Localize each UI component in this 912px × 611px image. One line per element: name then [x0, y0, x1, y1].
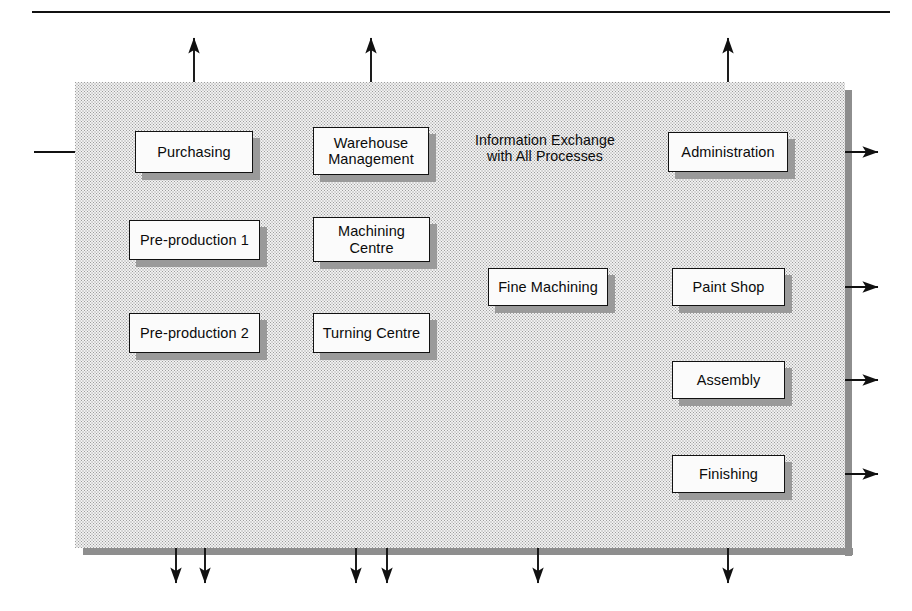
process-node-turning[interactable]: Turning Centre	[313, 313, 430, 353]
process-node-preprod1[interactable]: Pre-production 1	[129, 220, 260, 260]
diagram-canvas: PurchasingWarehouseManagementAdministrat…	[0, 0, 912, 611]
process-node-purchasing[interactable]: Purchasing	[135, 131, 253, 173]
node-label: Paint Shop	[693, 279, 765, 295]
node-label: Finishing	[699, 466, 758, 482]
annotation-line-1: Information Exchange	[452, 132, 638, 148]
node-label: MachiningCentre	[338, 223, 405, 255]
node-label: Fine Machining	[498, 279, 598, 295]
node-label: Turning Centre	[323, 325, 421, 341]
process-node-assembly[interactable]: Assembly	[672, 361, 785, 399]
node-label: Pre-production 1	[140, 232, 249, 248]
information-exchange-annotation: Information Exchange with All Processes	[452, 132, 638, 165]
process-node-finemach[interactable]: Fine Machining	[488, 268, 608, 306]
node-label: WarehouseManagement	[328, 135, 414, 167]
process-node-paintshop[interactable]: Paint Shop	[672, 268, 785, 306]
process-node-finishing[interactable]: Finishing	[672, 455, 785, 493]
node-label: Purchasing	[157, 144, 231, 160]
node-label: Administration	[681, 144, 774, 160]
process-node-machining[interactable]: MachiningCentre	[313, 217, 430, 262]
process-node-preprod2[interactable]: Pre-production 2	[129, 313, 260, 353]
annotation-line-2: with All Processes	[452, 148, 638, 164]
top-divider-rule	[32, 11, 890, 13]
node-label: Assembly	[697, 372, 761, 388]
process-node-administration[interactable]: Administration	[668, 132, 788, 172]
node-label: Pre-production 2	[140, 325, 249, 341]
process-node-warehouse[interactable]: WarehouseManagement	[313, 127, 429, 175]
